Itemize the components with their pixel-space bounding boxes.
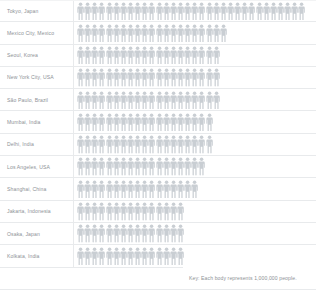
person-icon bbox=[84, 113, 91, 132]
person-icon bbox=[127, 180, 134, 199]
person-icon bbox=[284, 2, 291, 21]
row-label: Mumbai, India bbox=[0, 119, 73, 125]
person-icon bbox=[148, 157, 155, 176]
person-icon bbox=[84, 224, 91, 243]
person-icon bbox=[170, 247, 177, 266]
row-figures bbox=[73, 1, 316, 21]
person-icon bbox=[141, 2, 148, 21]
pictogram-chart: Tokyo, JapanMexico City, MexicoSeoul, Ko… bbox=[0, 0, 316, 294]
person-icon bbox=[98, 2, 105, 21]
person-icon bbox=[91, 180, 98, 199]
person-icon bbox=[84, 157, 91, 176]
person-icon bbox=[170, 180, 177, 199]
person-icon bbox=[113, 46, 120, 65]
person-icon bbox=[241, 2, 248, 21]
person-icon bbox=[177, 157, 184, 176]
person-icon bbox=[91, 24, 98, 43]
person-icon bbox=[206, 113, 213, 132]
person-icon bbox=[170, 91, 177, 110]
person-icon bbox=[163, 224, 170, 243]
person-icon bbox=[91, 135, 98, 154]
person-icon bbox=[98, 91, 105, 110]
person-icon bbox=[106, 180, 113, 199]
person-icon bbox=[170, 135, 177, 154]
person-icon bbox=[213, 24, 220, 43]
person-icon bbox=[134, 224, 141, 243]
person-icon bbox=[198, 113, 205, 132]
person-icon bbox=[134, 157, 141, 176]
person-icon bbox=[98, 247, 105, 266]
person-icon bbox=[106, 157, 113, 176]
row-figures bbox=[73, 89, 316, 110]
person-icon bbox=[91, 113, 98, 132]
row-figures bbox=[73, 111, 316, 132]
person-icon bbox=[141, 224, 148, 243]
person-icon bbox=[141, 68, 148, 87]
person-icon bbox=[163, 68, 170, 87]
person-icon bbox=[163, 46, 170, 65]
person-icon bbox=[113, 24, 120, 43]
person-icon bbox=[77, 91, 84, 110]
person-icon bbox=[77, 135, 84, 154]
person-icon bbox=[198, 24, 205, 43]
person-icon bbox=[184, 180, 191, 199]
person-icon bbox=[77, 202, 84, 221]
person-icon bbox=[134, 202, 141, 221]
person-icon bbox=[213, 91, 220, 110]
person-icon bbox=[291, 2, 298, 21]
person-icon bbox=[127, 224, 134, 243]
chart-rows: Tokyo, JapanMexico City, MexicoSeoul, Ko… bbox=[0, 0, 316, 268]
chart-key: Key: Each body represents 1,000,000 peop… bbox=[183, 266, 316, 289]
person-icon bbox=[198, 135, 205, 154]
person-icon bbox=[134, 247, 141, 266]
person-icon bbox=[91, 202, 98, 221]
chart-row: Tokyo, Japan bbox=[0, 0, 316, 22]
person-icon bbox=[120, 2, 127, 21]
person-icon bbox=[127, 2, 134, 21]
row-figures bbox=[73, 178, 316, 199]
person-icon bbox=[156, 135, 163, 154]
person-icon bbox=[206, 135, 213, 154]
person-icon bbox=[98, 46, 105, 65]
person-icon bbox=[248, 2, 255, 21]
person-icon bbox=[106, 2, 113, 21]
person-icon bbox=[191, 157, 198, 176]
person-icon bbox=[134, 24, 141, 43]
person-icon bbox=[177, 68, 184, 87]
person-icon bbox=[163, 135, 170, 154]
chart-row: New York City, USA bbox=[0, 67, 316, 89]
person-icon bbox=[198, 46, 205, 65]
person-icon bbox=[84, 46, 91, 65]
person-icon bbox=[77, 46, 84, 65]
row-figures bbox=[73, 156, 316, 177]
chart-row: São Paulo, Brazil bbox=[0, 89, 316, 111]
person-icon bbox=[177, 135, 184, 154]
person-icon bbox=[120, 24, 127, 43]
person-icon bbox=[141, 157, 148, 176]
person-icon bbox=[206, 2, 213, 21]
row-figures bbox=[73, 223, 316, 244]
person-icon bbox=[77, 224, 84, 243]
person-icon bbox=[113, 91, 120, 110]
person-icon bbox=[191, 46, 198, 65]
person-icon bbox=[206, 46, 213, 65]
person-icon bbox=[113, 68, 120, 87]
person-icon bbox=[120, 157, 127, 176]
person-icon bbox=[177, 202, 184, 221]
person-icon bbox=[170, 46, 177, 65]
person-icon bbox=[156, 247, 163, 266]
chart-row: Kolkata, India bbox=[0, 245, 316, 267]
person-icon bbox=[134, 91, 141, 110]
person-icon bbox=[184, 157, 191, 176]
person-icon bbox=[170, 68, 177, 87]
chart-row: Mumbai, India bbox=[0, 111, 316, 133]
person-icon bbox=[84, 135, 91, 154]
person-icon bbox=[134, 46, 141, 65]
person-icon bbox=[170, 224, 177, 243]
row-label: Tokyo, Japan bbox=[0, 8, 73, 14]
person-icon bbox=[91, 2, 98, 21]
person-icon bbox=[184, 24, 191, 43]
person-icon bbox=[148, 68, 155, 87]
person-icon bbox=[84, 180, 91, 199]
person-icon bbox=[206, 24, 213, 43]
